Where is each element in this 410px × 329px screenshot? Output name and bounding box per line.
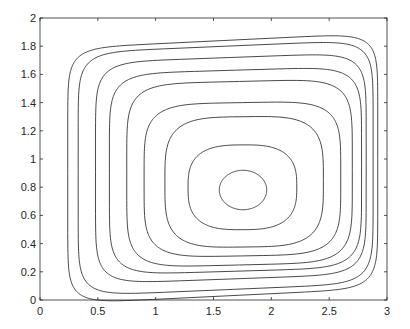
orbit-curve xyxy=(78,43,373,294)
y-tick-label: 1.2 xyxy=(21,125,36,137)
orbit-curve xyxy=(219,170,266,209)
y-tick-label: 0.2 xyxy=(21,266,36,278)
x-tick-label: 1 xyxy=(153,305,159,317)
y-tick-label: 0.6 xyxy=(21,209,36,221)
orbit-curves xyxy=(68,36,378,301)
orbit-curve xyxy=(144,102,341,256)
x-tick-label: 0.5 xyxy=(90,305,105,317)
y-tick-label: 1.6 xyxy=(21,68,36,80)
x-tick-label: 0 xyxy=(37,305,43,317)
orbit-curve xyxy=(127,80,353,266)
y-tick-label: 1.8 xyxy=(21,40,36,52)
orbit-curve xyxy=(188,145,297,230)
y-tick-label: 1.4 xyxy=(21,97,36,109)
y-tick-label: 1 xyxy=(30,153,36,165)
orbit-chart: 00.511.522.53 00.20.40.60.811.21.41.61.8… xyxy=(0,0,410,329)
x-tick-label: 3 xyxy=(384,305,390,317)
orbit-curve xyxy=(96,55,367,282)
y-tick-label: 0 xyxy=(30,294,36,306)
x-tick-label: 2.5 xyxy=(322,305,337,317)
y-tick-label: 2 xyxy=(30,12,36,24)
y-tick-label: 0.4 xyxy=(21,238,36,250)
orbit-curve xyxy=(165,117,323,248)
x-tick-label: 1.5 xyxy=(206,305,221,317)
y-axis: 00.20.40.60.811.21.41.61.82 xyxy=(21,12,387,306)
orbit-curve xyxy=(68,36,378,301)
y-tick-label: 0.8 xyxy=(21,181,36,193)
x-tick-label: 2 xyxy=(268,305,274,317)
